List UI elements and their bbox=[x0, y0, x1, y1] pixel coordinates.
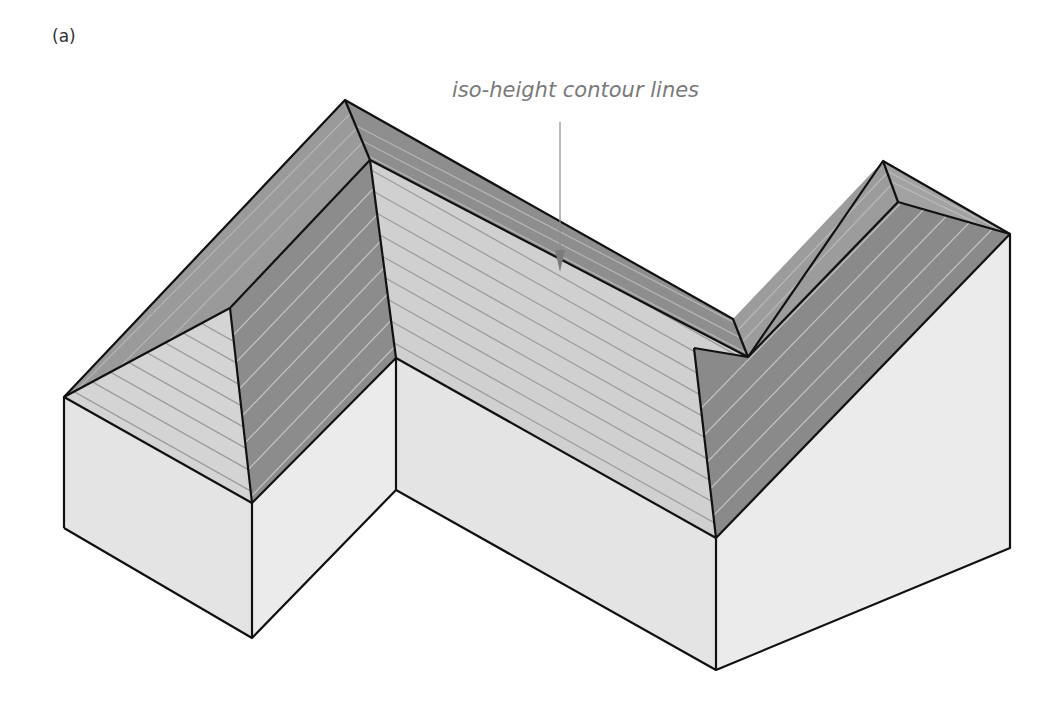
building-diagram bbox=[0, 0, 1064, 713]
